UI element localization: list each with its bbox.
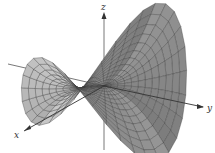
mesh-facet: [138, 80, 145, 88]
surface-plot: z x y: [0, 0, 215, 153]
y-axis-label: y: [206, 103, 213, 113]
y-arrowhead-icon: [197, 104, 204, 109]
mesh-facet: [159, 76, 167, 91]
x-arrowhead-icon: [24, 125, 31, 131]
mesh-facet: [179, 70, 187, 95]
z-arrowhead-icon: [102, 12, 107, 19]
mesh-facet: [165, 74, 173, 92]
x-axis-label: x: [14, 130, 19, 140]
z-axis-label: z: [100, 2, 106, 12]
mesh-facet: [145, 79, 152, 89]
mesh-facet: [152, 77, 159, 89]
mesh-facet: [28, 88, 36, 99]
mesh-facet: [131, 81, 138, 87]
mesh-facet: [172, 72, 180, 93]
mesh-facet: [21, 88, 29, 102]
